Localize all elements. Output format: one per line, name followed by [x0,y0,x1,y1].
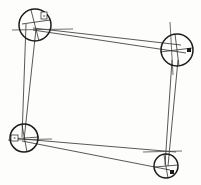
index-marker-d [170,170,174,174]
diagram-background [0,0,201,185]
survey-diagram-canvas: xx [0,0,201,185]
survey-diagram-svg: xx [0,0,201,185]
index-marker-b [187,48,191,52]
